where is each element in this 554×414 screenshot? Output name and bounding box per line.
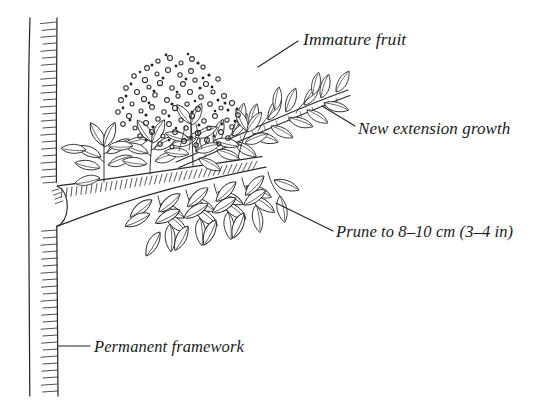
botanical-line-drawing bbox=[0, 0, 554, 414]
lower-foliage bbox=[123, 172, 301, 258]
permanent-framework-trunk bbox=[28, 18, 58, 396]
label-new-extension-growth: New extension growth bbox=[358, 120, 510, 137]
label-immature-fruit: Immature fruit bbox=[303, 31, 406, 49]
pruning-diagram-figure: Immature fruit New extension growth Prun… bbox=[0, 0, 554, 414]
label-prune-to: Prune to 8–10 cm (3–4 in) bbox=[336, 224, 513, 241]
leader-immature-fruit bbox=[258, 41, 298, 67]
label-permanent-framework: Permanent framework bbox=[94, 339, 244, 356]
